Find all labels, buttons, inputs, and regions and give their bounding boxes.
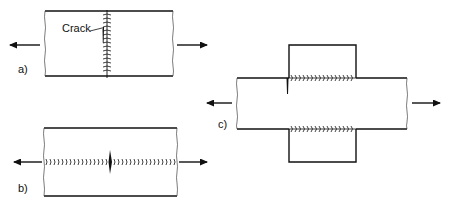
panel-label-b: b) bbox=[18, 182, 28, 194]
break-line-right bbox=[407, 78, 408, 129]
break-line-right bbox=[177, 128, 178, 196]
panel-label-a: a) bbox=[18, 63, 28, 75]
panel-a: Crack a) bbox=[10, 10, 207, 78]
panel-label-c: c) bbox=[218, 118, 227, 130]
panel-c: c) bbox=[207, 45, 440, 162]
break-line-left bbox=[44, 128, 45, 196]
crack-mark bbox=[103, 27, 105, 43]
crack-leader-line bbox=[90, 28, 102, 31]
top-cover-plate bbox=[289, 45, 356, 78]
break-line-left bbox=[237, 78, 238, 129]
weld-crack-diagram: Crack a) b) bbox=[0, 0, 453, 204]
crack-mark bbox=[287, 78, 289, 94]
crack-label: Crack bbox=[62, 22, 91, 34]
break-line-right bbox=[173, 11, 174, 76]
panel-b: b) bbox=[14, 128, 207, 196]
break-line-left bbox=[45, 11, 46, 76]
bottom-cover-plate bbox=[289, 129, 356, 162]
crack-mark bbox=[109, 150, 113, 174]
